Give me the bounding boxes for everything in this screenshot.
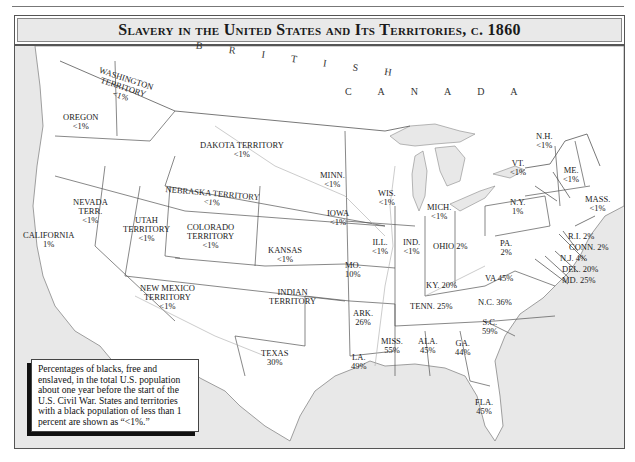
region-nh: N.H.<1% [536,132,553,150]
region-nj: N.J. 4% [560,254,587,263]
region-ala: ALA.45% [418,337,438,355]
region-wis: WIS.<1% [378,189,396,207]
region-texas: TEXAS30% [261,349,288,367]
region-ri: R.I. 2% [568,232,594,241]
region-california: CALIFORNIA1% [23,231,74,249]
region-nc: N.C. 36% [478,298,512,307]
region-vt: VT.<1% [510,159,526,177]
region-la: LA.49% [351,353,367,371]
region-ga: GA.44% [455,339,471,357]
region-new-mexico: NEW MEXICOTERRITORY<1% [140,284,195,311]
region-pa: PA.2% [500,239,512,257]
region-ohio: OHIO 2% [433,242,468,251]
map-note: Percentages of blacks, free and enslaved… [31,359,199,432]
region-ny: N.Y.1% [510,198,525,216]
region-mo: MO.10% [345,261,361,279]
region-iowa: IOWA<1% [327,209,349,227]
page-header-rule [12,6,624,7]
region-md: MD. 25% [562,276,596,285]
map-figure: Slavery in the United States and Its Ter… [14,15,625,449]
region-miss: MISS.55% [381,337,403,355]
map-area: B R I T I S H C A N A D A WASHINGTONTERR… [15,46,624,448]
region-colorado: COLORADOTERRITORY<1% [187,223,234,250]
region-oregon: OREGON<1% [63,113,98,131]
region-del: DEL. 20% [562,265,598,274]
region-utah: UTAHTERRITORY<1% [123,216,170,243]
region-minn: MINN.<1% [320,171,345,189]
label-canada: C A N A D A [345,86,530,97]
region-ind: IND.<1% [403,238,420,256]
region-dakota: DAKOTA TERRITORY<1% [200,141,284,159]
region-nevada: NEVADATERR.<1% [73,198,108,225]
region-tenn: TENN. 25% [410,302,453,311]
title-bar: Slavery in the United States and Its Ter… [15,16,624,46]
region-mass: MASS.<1% [585,195,610,213]
region-conn: CONN. 2% [569,243,609,252]
region-ill: ILL.<1% [372,238,388,256]
region-fla: FLA.45% [475,398,493,416]
region-ark: ARK.26% [353,309,373,327]
region-me: ME.<1% [563,166,579,184]
region-mich: MICH.<1% [427,203,451,221]
region-ky: KY. 20% [426,281,457,290]
region-indian: INDIANTERRITORY [269,288,316,306]
map-title: Slavery in the United States and Its Ter… [118,21,521,39]
region-va: VA 45% [485,274,513,283]
region-sc: S.C.59% [482,318,498,336]
region-kansas: KANSAS<1% [268,246,302,264]
